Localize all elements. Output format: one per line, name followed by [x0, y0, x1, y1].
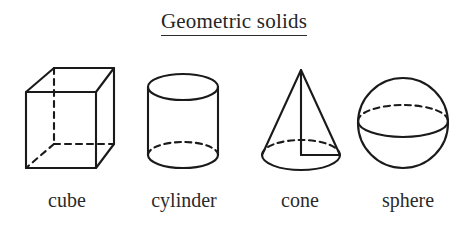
solid-label-sphere: sphere [356, 186, 460, 214]
cube-icon [26, 68, 114, 168]
sphere-icon [358, 78, 448, 168]
cylinder-bottom-front-arc [148, 155, 218, 168]
solid-label-cube: cube [12, 186, 122, 214]
solid-label-cone: cone [248, 186, 352, 214]
cube-front-face [26, 92, 96, 168]
cylinder-icon [148, 74, 218, 168]
sphere-equator-back-arc [358, 105, 448, 121]
cylinder-bottom-back-arc [148, 142, 218, 155]
cube-hidden-edges [26, 68, 114, 168]
sphere-outline [358, 78, 448, 168]
cone-icon [262, 70, 340, 170]
cube-hidden-diagonal-edge [26, 144, 54, 168]
cube-top-face [26, 68, 114, 92]
cube-right-face [96, 68, 114, 168]
cone-base-front-arc [262, 155, 340, 170]
geometric-solids-figure: Geometric solids [0, 0, 468, 228]
sphere-equator-front-arc [358, 121, 448, 137]
solid-labels-row: cube cylinder cone sphere [0, 186, 468, 218]
solid-label-cylinder: cylinder [128, 186, 240, 214]
cylinder-top-ellipse [148, 74, 218, 100]
